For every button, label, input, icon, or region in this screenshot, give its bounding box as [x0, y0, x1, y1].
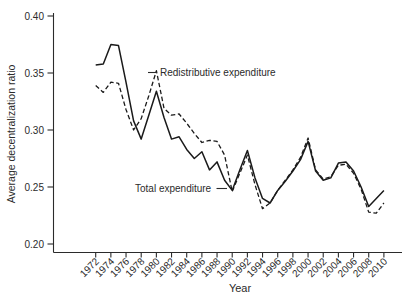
annotation-total: Total expenditure	[135, 183, 227, 194]
x-axis-ticks: 1972197419761978198019821984198619881990…	[78, 253, 390, 280]
y-tick-label: 0.35	[25, 68, 45, 79]
chart-canvas: 0.400.350.300.250.20 1972197419761978198…	[0, 0, 408, 304]
x-axis-label: Year	[229, 282, 252, 294]
annotation-total-label: Total expenditure	[135, 183, 212, 194]
y-tick-label: 0.30	[25, 125, 45, 136]
y-tick-label: 0.25	[25, 182, 45, 193]
y-tick-label: 0.20	[25, 239, 45, 250]
annotation-redistributive-label: Redistributive expenditure	[160, 67, 276, 78]
annotation-redistributive: Redistributive expenditure	[148, 67, 276, 78]
y-axis-ticks: 0.400.350.300.250.20	[25, 11, 54, 250]
axes	[54, 13, 403, 253]
y-tick-label: 0.40	[25, 11, 45, 22]
chart-figure: 0.400.350.300.250.20 1972197419761978198…	[0, 0, 408, 304]
y-axis-label: Average decentralization ratio	[5, 64, 17, 203]
